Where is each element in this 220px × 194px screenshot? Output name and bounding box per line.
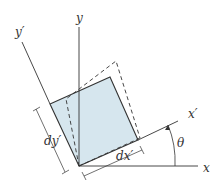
dx-tick-left [82, 172, 86, 180]
y-prime-axis [22, 42, 50, 104]
x-prime-axis-label: x′ [188, 108, 198, 120]
dx-prime-label: dx′ [116, 150, 133, 162]
dy-prime-label: dy′ [44, 135, 61, 147]
x-axis-label: x [203, 162, 210, 174]
dx-tick-right [140, 146, 144, 154]
y-axis-label: y [76, 12, 83, 24]
dy-tick-bottom [62, 170, 69, 174]
theta-arc [168, 125, 175, 166]
diagram-canvas [0, 0, 220, 194]
y-prime-axis-label: y′ [15, 26, 25, 38]
rotated-element-diagram: y y′ x x′ θ dx′ dy′ [0, 0, 220, 194]
theta-label: θ [177, 137, 184, 149]
